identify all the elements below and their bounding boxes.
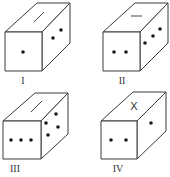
die-2: II [103, 3, 168, 86]
pip [21, 50, 25, 54]
top-x-mark: X [130, 100, 138, 112]
pip [124, 138, 128, 142]
die-4: X IV [101, 92, 166, 174]
pip [46, 133, 50, 137]
pip [44, 121, 48, 125]
pip [109, 138, 113, 142]
pip [143, 41, 147, 45]
pip [59, 28, 63, 32]
pip [151, 34, 155, 38]
die-label: II [119, 75, 126, 86]
dice-figure: I II III X IV [0, 0, 170, 177]
pip [56, 125, 60, 129]
pip [9, 138, 13, 142]
pip [149, 121, 153, 125]
die-label: III [10, 163, 20, 174]
pip [124, 50, 128, 54]
die-1: I [5, 3, 70, 86]
pip [29, 138, 33, 142]
die-label: I [21, 75, 24, 86]
pip [19, 138, 23, 142]
pip [54, 112, 58, 116]
die-label: IV [113, 163, 124, 174]
pip [112, 50, 116, 54]
die-3: III [3, 93, 68, 174]
pip [51, 36, 55, 40]
pip [158, 27, 162, 31]
